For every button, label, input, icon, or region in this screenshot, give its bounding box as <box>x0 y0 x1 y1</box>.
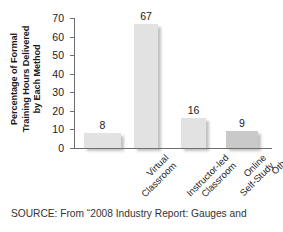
y-tick-20: 20 <box>70 111 75 112</box>
y-tick-70: 70 <box>70 18 75 19</box>
bar-other[interactable]: 9 <box>226 131 258 148</box>
plot-area: 0 10 20 30 40 50 60 70 8 67 16 <box>74 18 272 148</box>
bar-online-self-study[interactable]: 16 <box>181 118 206 148</box>
y-tick-label-60: 60 <box>52 31 64 43</box>
y-axis-title-line-1: Percentage of Formal <box>9 26 21 132</box>
y-axis-title: Percentage of Formal Training Hours Deli… <box>0 0 52 158</box>
bar-value-other: 9 <box>239 117 245 129</box>
bar-value-virtual-classroom: 8 <box>100 119 106 131</box>
source-note: SOURCE: From “2008 Industry Report: Gaug… <box>11 208 247 219</box>
y-tick-label-30: 30 <box>52 86 64 98</box>
y-tick-label-70: 70 <box>52 12 64 24</box>
y-tick-label-0: 0 <box>58 142 64 154</box>
y-tick-label-50: 50 <box>52 49 64 61</box>
bar-chart-figure: Percentage of Formal Training Hours Deli… <box>0 0 283 232</box>
bar-instructor-led-classroom[interactable]: 67 <box>134 24 158 148</box>
y-tick-30: 30 <box>70 92 75 93</box>
y-tick-10: 10 <box>70 129 75 130</box>
y-tick-label-20: 20 <box>52 105 64 117</box>
x-category-label-virtual-classroom: Virtual Classroom <box>131 152 178 199</box>
y-tick-50: 50 <box>70 55 75 56</box>
y-tick-60: 60 <box>70 37 75 38</box>
y-tick-label-40: 40 <box>52 68 64 80</box>
y-tick-label-10: 10 <box>52 123 64 135</box>
y-axis-title-line-2: Training Hours Delivered <box>20 26 32 132</box>
x-category-label-instructor-led-classroom: Instructor-led Classroom <box>184 152 238 206</box>
bar-virtual-classroom[interactable]: 8 <box>84 133 121 148</box>
x-axis-line <box>74 148 272 149</box>
y-tick-0: 0 <box>70 148 75 149</box>
y-axis-title-line-3: by Each Method <box>32 26 44 132</box>
bar-value-instructor-led-classroom: 67 <box>140 10 152 22</box>
bar-value-online-self-study: 16 <box>188 104 200 116</box>
x-category-label-online-self-study: Online Self-Study <box>230 152 276 198</box>
y-tick-40: 40 <box>70 74 75 75</box>
